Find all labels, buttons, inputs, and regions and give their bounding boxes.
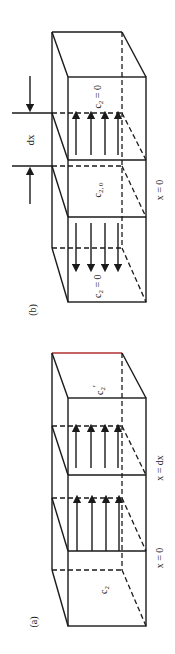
slice-a1-left-diag (52, 426, 68, 475)
slice-a2-right-diag (122, 498, 146, 551)
box-b-front-face (68, 77, 146, 302)
box-a-bottom-left-diag (52, 570, 68, 626)
slice-a1-right-diag (122, 426, 146, 475)
slice-b2-right-diag (122, 166, 146, 217)
label-a-c2-prime: c2′ (91, 385, 107, 395)
flux-arrows-b-right (76, 115, 118, 155)
panel-b-label: (b) (27, 304, 39, 316)
slice-b1-right-diag (122, 113, 146, 160)
flux-arrows-a-lower (77, 499, 119, 551)
label-b-c2-zero-left: c2 = 0 (92, 274, 105, 298)
diffusion-box-figure: dx c2 = 0 c2, 0 c2 = 0 x = 0 (b) (0, 0, 175, 654)
label-a-x-equals-dx: x = dx (154, 455, 165, 481)
box-b-top-right-diag (122, 32, 146, 77)
panel-a-label: (a) (28, 616, 40, 627)
slice-a2-left-diag (52, 498, 68, 551)
slice-b1-left-diag (52, 113, 68, 160)
label-b-c2-0-center: c2, 0 (92, 182, 105, 197)
dx-label: dx (24, 134, 36, 146)
box-a-top-left-diag (52, 353, 68, 398)
panel-a: c2′ c2 x = dx x = 0 (a) (28, 353, 165, 628)
box-a-top-right-diag (122, 353, 146, 398)
box-a-bottom-right-diag (122, 570, 146, 626)
label-a-x-equals-0: x = 0 (154, 548, 165, 569)
label-a-c2: c2 (98, 586, 111, 594)
label-b-c2-zero-right: c2 = 0 (92, 85, 105, 109)
slice-b2-left-diag (52, 166, 68, 217)
box-b-bottom-left-diag (52, 248, 68, 302)
box-b-bottom-right-diag (122, 248, 146, 302)
label-b-x-equals-0: x = 0 (154, 180, 165, 201)
flux-arrows-a-upper (76, 428, 118, 468)
panel-b: dx c2 = 0 c2, 0 c2 = 0 x = 0 (b) (12, 32, 165, 316)
flux-arrows-b-left (76, 223, 118, 268)
box-b-top-left-diag (52, 32, 68, 77)
